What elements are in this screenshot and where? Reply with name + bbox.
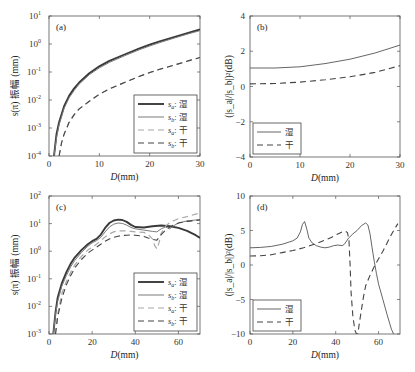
y-tick-label: 5 <box>241 226 246 236</box>
panel-label: (d) <box>257 202 268 212</box>
y-tick-exponent: -4 <box>36 150 41 156</box>
y-tick-label: −10 <box>231 329 246 339</box>
x-tick-label: 60 <box>174 337 184 347</box>
legend-entry: sb: 干 <box>168 316 188 327</box>
y-axis-label: s(π) 振幅 (mm) <box>9 235 21 296</box>
legend-tag: : 干 <box>174 138 188 148</box>
panel-label: (a) <box>56 22 66 32</box>
y-tick-label: 4 <box>241 11 246 21</box>
x-tick-label: 20 <box>145 159 155 169</box>
legend-entry: sa: 湿 <box>168 277 188 288</box>
x-tick-label: 0 <box>248 160 253 170</box>
legend: 湿干 <box>253 123 301 154</box>
x-axis-label: D(mm) <box>110 350 139 361</box>
legend-tag: : 湿 <box>174 99 188 109</box>
y-tick-exponent: -1 <box>36 66 41 72</box>
x-tick-label: 20 <box>88 337 98 347</box>
x-axis-label: D(mm) <box>310 350 339 361</box>
y-tick-label: 10 <box>236 191 246 201</box>
y-tick-exponent: -2 <box>36 300 41 306</box>
legend-entry: 干 <box>285 140 294 150</box>
y-tick-label: 0 <box>241 82 246 92</box>
y-tick-label: −2 <box>235 117 245 127</box>
x-axis-unit: (mm) <box>117 172 138 183</box>
legend-tag: : 干 <box>174 303 188 313</box>
x-tick-label: 20 <box>346 160 356 170</box>
y-tick-exponent: -2 <box>36 94 41 100</box>
legend-entry: 干 <box>285 317 294 327</box>
figure: 010203010-410-310-210-1100101D(mm)s(π) 振… <box>0 0 415 372</box>
legend-entry: 湿 <box>285 127 294 137</box>
legend-entry: 湿 <box>285 304 294 314</box>
x-tick-label: 10 <box>296 160 306 170</box>
legend-entry: sa: 湿 <box>168 99 188 110</box>
x-axis-var: D <box>110 172 118 182</box>
legend-tag: : 湿 <box>174 290 188 300</box>
y-tick-exponent: 0 <box>38 245 41 251</box>
y-tick-label: −5 <box>235 295 245 305</box>
x-tick-label: 0 <box>47 159 52 169</box>
y-tick-label: −4 <box>235 152 245 162</box>
legend-entry: sa: 干 <box>168 125 188 136</box>
y-tick-label: 0 <box>241 260 246 270</box>
x-axis-label: D(mm) <box>110 172 139 183</box>
x-tick-label: 40 <box>131 337 141 347</box>
x-axis-unit: (mm) <box>117 350 138 361</box>
y-tick-exponent: 2 <box>38 190 41 196</box>
legend-entry: sb: 干 <box>168 138 188 149</box>
y-tick-label: 2 <box>241 46 246 56</box>
x-tick-label: 30 <box>196 159 206 169</box>
x-axis-var: D <box>310 350 318 360</box>
legend-tag: : 湿 <box>174 277 188 287</box>
y-tick-exponent: 1 <box>38 10 41 16</box>
legend: sa: 湿sb: 湿sa: 干sb: 干 <box>134 273 197 331</box>
x-tick-label: 20 <box>288 337 298 347</box>
y-tick-exponent: 0 <box>38 38 41 44</box>
legend-entry: sa: 干 <box>168 303 188 314</box>
x-tick-label: 10 <box>95 159 105 169</box>
legend-tag: : 干 <box>174 125 188 135</box>
legend: sa: 湿sb: 湿sa: 干sb: 干 <box>134 95 197 153</box>
legend: 湿干 <box>253 300 301 331</box>
x-tick-label: 0 <box>47 337 52 347</box>
y-axis-label: s(π) 振幅 (mm) <box>9 56 21 117</box>
x-tick-label: 60 <box>374 337 384 347</box>
x-tick-label: 40 <box>331 337 341 347</box>
x-tick-label: 30 <box>396 160 406 170</box>
x-axis-label: D(mm) <box>310 173 339 184</box>
panel-label: (b) <box>257 22 268 32</box>
y-tick-exponent: 1 <box>38 218 41 224</box>
legend-entry: sb: 湿 <box>168 290 188 301</box>
legend-tag: : 湿 <box>174 112 188 122</box>
y-axis-label: (|s_a|/|s_b|)²(dB) <box>224 234 235 297</box>
x-axis-var: D <box>110 350 118 360</box>
x-axis-unit: (mm) <box>318 173 339 184</box>
legend-tag: : 干 <box>174 316 188 326</box>
y-tick-exponent: -1 <box>36 273 41 279</box>
y-axis-label: (|s_a|/|s_b|)²(dB) <box>224 55 235 118</box>
x-axis-var: D <box>310 173 318 183</box>
x-axis-unit: (mm) <box>318 350 339 361</box>
x-tick-label: 0 <box>248 337 253 347</box>
y-tick-exponent: -3 <box>36 328 41 334</box>
y-tick-exponent: -3 <box>36 122 41 128</box>
panel-label: (c) <box>56 202 66 212</box>
legend-entry: sb: 湿 <box>168 112 188 123</box>
